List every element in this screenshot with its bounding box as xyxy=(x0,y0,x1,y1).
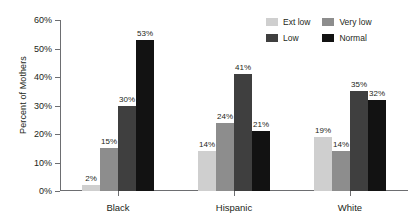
bar-column[interactable]: 19% xyxy=(314,20,332,191)
bar[interactable] xyxy=(100,148,118,191)
bar-value-label: 35% xyxy=(351,81,367,89)
bar-value-label: 15% xyxy=(101,138,117,146)
bar-column[interactable]: 15% xyxy=(100,20,118,191)
x-axis-category-label: Black xyxy=(106,202,129,213)
x-axis-tick xyxy=(234,191,235,196)
bar[interactable] xyxy=(252,131,270,191)
bar-value-label: 14% xyxy=(199,141,215,149)
y-axis-tick-label: 50% xyxy=(34,44,52,53)
bar-column[interactable]: 32% xyxy=(368,20,386,191)
legend-label: Low xyxy=(283,34,299,43)
bar[interactable] xyxy=(368,100,386,191)
bar[interactable] xyxy=(82,185,100,191)
bar-group-bars: 19%14%35%32% xyxy=(312,20,388,191)
y-axis-tick xyxy=(55,20,60,21)
bar[interactable] xyxy=(314,137,332,191)
bar-group: 2%15%30%53% xyxy=(80,20,156,191)
legend-label: Very low xyxy=(339,18,371,27)
bar-chart: Percent of Mothers 0%10%20%30%40%50%60%2… xyxy=(0,0,415,224)
y-axis-tick xyxy=(55,191,60,192)
legend-swatch xyxy=(266,34,278,42)
bar-value-label: 24% xyxy=(217,113,233,121)
y-axis-tick xyxy=(55,49,60,50)
legend-swatch xyxy=(322,18,334,26)
chart-legend: Ext lowVery lowLowNormal xyxy=(266,18,372,42)
bar-column[interactable]: 53% xyxy=(136,20,154,191)
legend-item[interactable]: Very low xyxy=(322,18,371,27)
bar[interactable] xyxy=(136,40,154,191)
y-axis-tick xyxy=(55,77,60,78)
bar-column[interactable]: 2% xyxy=(82,20,100,191)
legend-swatch xyxy=(322,34,334,42)
bar-value-label: 19% xyxy=(315,127,331,135)
bar-value-label: 21% xyxy=(253,121,269,129)
bar[interactable] xyxy=(332,151,350,191)
y-axis-tick-label: 30% xyxy=(34,101,52,110)
legend-item[interactable]: Normal xyxy=(322,34,371,43)
y-axis-tick xyxy=(55,106,60,107)
legend-label: Ext low xyxy=(283,18,310,27)
y-axis-tick-label: 40% xyxy=(34,73,52,82)
bar-group-bars: 14%24%41%21% xyxy=(196,20,272,191)
bar-group: 14%24%41%21% xyxy=(196,20,272,191)
bar-column[interactable]: 24% xyxy=(216,20,234,191)
bar[interactable] xyxy=(198,151,216,191)
legend-label: Normal xyxy=(339,34,366,43)
bar-value-label: 14% xyxy=(333,141,349,149)
bar-group: 19%14%35%32% xyxy=(312,20,388,191)
bar-value-label: 53% xyxy=(137,30,153,38)
x-axis-category-label: Hispanic xyxy=(216,202,252,213)
bar-column[interactable]: 30% xyxy=(118,20,136,191)
bar-group-bars: 2%15%30%53% xyxy=(80,20,156,191)
bar-value-label: 41% xyxy=(235,64,251,72)
y-axis-line xyxy=(60,20,61,191)
bar-value-label: 2% xyxy=(85,175,97,183)
x-axis-tick xyxy=(350,191,351,196)
bar-column[interactable]: 14% xyxy=(198,20,216,191)
bar-column[interactable]: 21% xyxy=(252,20,270,191)
y-axis-tick-label: 0% xyxy=(39,187,52,196)
y-axis-tick xyxy=(55,134,60,135)
y-axis-tick-label: 20% xyxy=(34,130,52,139)
bar[interactable] xyxy=(118,106,136,192)
legend-item[interactable]: Low xyxy=(266,34,310,43)
legend-item[interactable]: Ext low xyxy=(266,18,310,27)
plot-area: 0%10%20%30%40%50%60%2%15%30%53%Black14%2… xyxy=(60,20,408,191)
y-axis-tick xyxy=(55,163,60,164)
bar[interactable] xyxy=(216,123,234,191)
x-axis-category-label: White xyxy=(338,202,362,213)
x-axis-tick xyxy=(118,191,119,196)
bar-value-label: 32% xyxy=(369,90,385,98)
bar-column[interactable]: 35% xyxy=(350,20,368,191)
legend-swatch xyxy=(266,18,278,26)
bar[interactable] xyxy=(234,74,252,191)
bar-value-label: 30% xyxy=(119,96,135,104)
bar-column[interactable]: 14% xyxy=(332,20,350,191)
bar-column[interactable]: 41% xyxy=(234,20,252,191)
y-axis-tick-label: 10% xyxy=(34,158,52,167)
y-axis-tick-label: 60% xyxy=(34,16,52,25)
y-axis-title: Percent of Mothers xyxy=(18,25,28,165)
bar[interactable] xyxy=(350,91,368,191)
